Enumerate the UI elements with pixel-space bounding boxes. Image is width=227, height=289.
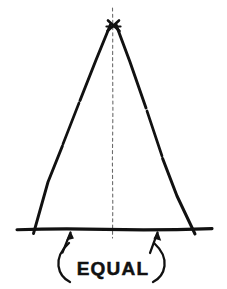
triangle-baseline (17, 229, 212, 230)
equal-label: EQUAL (77, 258, 150, 279)
baseline-group (17, 229, 212, 230)
paper-background (0, 0, 227, 289)
figure-root: EQUAL (0, 0, 227, 289)
triangle-diagram-svg: EQUAL (0, 0, 227, 289)
